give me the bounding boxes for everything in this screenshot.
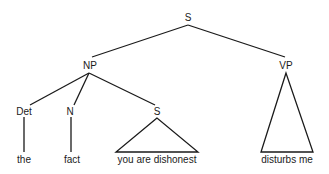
node-vp: VP — [279, 61, 292, 71]
node-s-root: S — [185, 13, 192, 23]
edge-np-s — [89, 73, 155, 105]
node-det: Det — [16, 107, 32, 117]
leaf-disturbs-me: disturbs me — [261, 155, 313, 165]
edge-np-det — [30, 73, 89, 105]
node-np: NP — [83, 61, 97, 71]
edge-s-np — [92, 25, 188, 57]
tree-edges — [0, 0, 329, 174]
triangle-vp — [261, 73, 313, 152]
leaf-fact: fact — [64, 155, 80, 165]
edge-s-vp — [188, 25, 285, 57]
node-s-embedded: S — [154, 107, 161, 117]
node-n: N — [66, 107, 73, 117]
triangle-s-embedded — [116, 118, 198, 152]
leaf-you-are-dishonest: you are dishonest — [118, 155, 197, 165]
leaf-the: the — [17, 155, 31, 165]
